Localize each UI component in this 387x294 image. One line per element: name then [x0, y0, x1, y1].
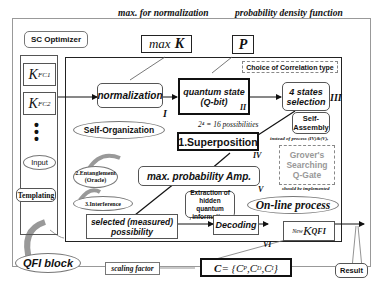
numeral-vi: VI — [263, 240, 271, 249]
templating-label: Templating — [16, 188, 56, 202]
max-k-box: max K — [141, 35, 192, 53]
normalization-box: normalization — [97, 83, 163, 108]
max-normalization-caption: max. for normalization — [118, 8, 209, 18]
k-fc2-box: KFC2 — [23, 92, 56, 115]
numeral-ii: II — [240, 103, 246, 112]
qfi-block-ellipse: QFI block — [15, 253, 81, 273]
four-states-box: 4 states selection — [282, 82, 330, 111]
result-label: Result — [335, 263, 368, 278]
correlation-choice-label: Choice of Correlation type — [242, 61, 338, 73]
self-organization-ellipse: Self-Organization — [73, 121, 165, 139]
implemented-note: should be implemented — [282, 186, 330, 191]
pdf-caption: probability density function — [235, 8, 343, 18]
decoding-box: Decoding — [213, 215, 259, 235]
interference-ellipse: 3.Interference — [73, 196, 133, 211]
scaling-factor-label: scaling factor — [105, 262, 160, 275]
pdf-box: P — [232, 35, 254, 54]
online-process-ellipse: On-line process — [247, 196, 339, 214]
extraction-label: Extraction of hidden quantum information — [185, 191, 235, 218]
instead-note: instead of process (IV)&(V), — [270, 136, 328, 141]
numeral-i: I — [163, 108, 167, 119]
k-fc1-box: KFC1 — [23, 63, 56, 86]
numeral-v: V — [258, 185, 263, 194]
numeral-iv: IV — [253, 151, 261, 160]
grover-gate-box: Grover's Searching Q-Gate — [279, 145, 335, 185]
superposition-box: 1.Superposition — [177, 132, 259, 151]
possibilities-caption: 2⁴ = 16 possibilities — [198, 120, 258, 129]
input-ellipse: Input — [23, 155, 56, 170]
max-probability-box: max. probability Amp. — [138, 166, 260, 186]
numeral-iii: III — [330, 92, 342, 103]
entanglement-ellipse: 2.Entanglement (Oracle) — [73, 166, 118, 188]
self-assembly-box: Self- Assembly — [292, 112, 330, 134]
selected-possibility-box: selected (measured) possibility — [86, 214, 178, 239]
ellipsis-dots: ••• — [34, 122, 39, 143]
sc-optimizer-label: SC Optimizer — [24, 31, 88, 48]
new-k-qfi-box: New KQFI — [283, 221, 335, 241]
c-formula-box: C = {CP,CD,CI} — [200, 258, 292, 277]
